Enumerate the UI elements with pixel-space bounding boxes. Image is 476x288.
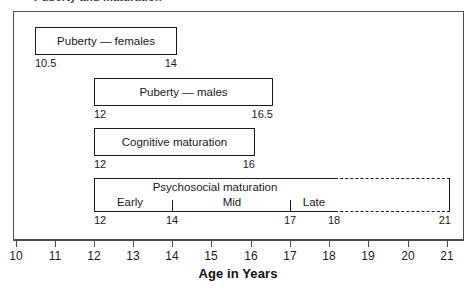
- x-axis-tick-12: [94, 240, 95, 247]
- x-axis-tick-17: [290, 240, 291, 247]
- bar-psychosocial-dashed-segment: [335, 178, 450, 212]
- x-axis-label-13: 13: [118, 249, 148, 263]
- inner-tick-age-14: [172, 200, 173, 212]
- x-axis-tick-10: [16, 240, 17, 247]
- bar-start-value-cognitive-maturation: 12: [94, 158, 106, 170]
- segment-label-early: Early: [105, 196, 155, 208]
- bar-start-value-puberty-females: 10.5: [35, 57, 56, 69]
- segment-label-late: Late: [294, 196, 334, 208]
- x-axis-tick-11: [55, 240, 56, 247]
- x-axis-label-14: 14: [157, 249, 187, 263]
- x-axis-tick-16: [251, 240, 252, 247]
- bar-start-value-puberty-males: 12: [94, 108, 106, 120]
- clipped-title: Puberty and maturation: [34, 0, 254, 3]
- psychosocial-value-12: 12: [94, 214, 106, 226]
- segment-label-mid: Mid: [212, 196, 252, 208]
- bar-puberty-males: Puberty — males: [94, 78, 273, 106]
- x-axis-tick-13: [133, 240, 134, 247]
- bar-label-cognitive-maturation: Cognitive maturation: [95, 136, 254, 148]
- bar-puberty-females: Puberty — females: [35, 27, 177, 55]
- x-axis-tick-15: [211, 240, 212, 247]
- psychosocial-value-18: 18: [328, 214, 340, 226]
- x-axis-label-11: 11: [40, 249, 70, 263]
- psychosocial-value-17: 17: [276, 214, 304, 226]
- bar-end-value-puberty-males: 16.5: [238, 108, 273, 120]
- x-axis-tick-14: [172, 240, 173, 247]
- psychosocial-value-14: 14: [158, 214, 186, 226]
- x-axis-tick-21: [447, 240, 448, 247]
- x-axis-tick-18: [329, 240, 330, 247]
- bar-end-value-cognitive-maturation: 16: [225, 158, 255, 170]
- x-axis-label-12: 12: [79, 249, 109, 263]
- x-axis-tick-20: [408, 240, 409, 247]
- x-axis-label-15: 15: [196, 249, 226, 263]
- bar-label-puberty-males: Puberty — males: [95, 86, 272, 98]
- bar-label-puberty-females: Puberty — females: [36, 35, 176, 47]
- x-axis-line: [13, 240, 464, 241]
- x-axis-tick-19: [368, 240, 369, 247]
- x-axis-label-20: 20: [393, 249, 423, 263]
- x-axis-label-17: 17: [275, 249, 305, 263]
- x-axis-label-18: 18: [314, 249, 344, 263]
- bar-label-psychosocial-maturation: Psychosocial maturation: [130, 181, 300, 193]
- x-axis-title: Age in Years: [0, 266, 476, 281]
- psychosocial-value-21: 21: [437, 214, 451, 226]
- x-axis-label-10: 10: [1, 249, 31, 263]
- figure-root: Puberty and maturation Puberty — females…: [0, 0, 476, 288]
- x-axis-label-16: 16: [236, 249, 266, 263]
- x-axis-label-21: 21: [432, 249, 462, 263]
- bar-cognitive-maturation: Cognitive maturation: [94, 128, 255, 156]
- x-axis-label-19: 19: [353, 249, 383, 263]
- bar-end-value-puberty-females: 14: [146, 57, 177, 69]
- inner-tick-age-17: [290, 200, 291, 212]
